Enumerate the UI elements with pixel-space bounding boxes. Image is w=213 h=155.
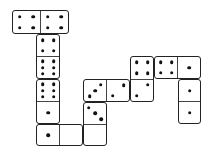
pip-icon — [93, 111, 97, 115]
pip-icon — [99, 117, 103, 121]
domino-half-3 — [84, 103, 106, 124]
pip-icon — [46, 111, 50, 115]
pip-icon — [122, 83, 126, 87]
domino-half-0 — [59, 125, 82, 145]
pip-icon — [146, 61, 150, 65]
domino-half-1 — [179, 80, 200, 101]
pip-icon — [52, 66, 56, 70]
domino-3-0[interactable] — [83, 102, 107, 146]
domino-4-6[interactable] — [36, 34, 60, 79]
pip-icon — [187, 66, 191, 70]
pip-icon — [135, 94, 139, 98]
pip-icon — [170, 71, 174, 75]
domino-1-1[interactable] — [178, 79, 201, 124]
domino-half-4 — [131, 57, 153, 79]
pip-icon — [52, 89, 56, 93]
pip-icon — [170, 60, 174, 64]
pip-icon — [41, 95, 45, 99]
domino-half-3 — [84, 80, 106, 101]
pip-icon — [41, 72, 45, 76]
domino-half-1 — [179, 101, 200, 123]
pip-icon — [59, 15, 63, 19]
pip-icon — [188, 89, 192, 93]
pip-icon — [31, 15, 35, 19]
pip-icon — [41, 66, 45, 70]
pip-icon — [18, 15, 22, 19]
pip-icon — [18, 26, 22, 30]
pip-icon — [46, 133, 50, 137]
pip-icon — [88, 95, 92, 99]
pip-icon — [41, 49, 45, 53]
pip-icon — [99, 83, 103, 87]
pip-icon — [52, 38, 56, 42]
pip-icon — [52, 82, 56, 86]
pip-icon — [52, 49, 56, 53]
domino-board — [0, 0, 213, 155]
domino-1-0[interactable] — [36, 124, 83, 146]
pip-icon — [146, 83, 150, 87]
domino-4-4[interactable] — [12, 10, 69, 34]
domino-half-6 — [37, 80, 59, 101]
pip-icon — [52, 72, 56, 76]
domino-half-4 — [13, 11, 40, 33]
domino-4-2[interactable] — [130, 56, 154, 102]
pip-icon — [111, 94, 115, 98]
pip-icon — [46, 26, 50, 30]
pip-icon — [59, 26, 63, 30]
domino-half-2 — [131, 79, 153, 102]
pip-icon — [87, 106, 91, 110]
pip-icon — [31, 26, 35, 30]
domino-half-2 — [106, 80, 129, 101]
pip-icon — [135, 71, 139, 75]
domino-half-6 — [37, 56, 59, 78]
domino-half-1 — [177, 57, 200, 78]
domino-half-1 — [37, 125, 59, 145]
pip-icon — [52, 95, 56, 99]
pip-icon — [159, 71, 163, 75]
pip-icon — [41, 38, 45, 42]
pip-icon — [146, 71, 150, 75]
domino-half-4 — [155, 57, 177, 78]
pip-icon — [93, 89, 97, 93]
pip-icon — [52, 59, 56, 63]
pip-icon — [188, 111, 192, 115]
domino-3-2[interactable] — [83, 79, 130, 102]
pip-icon — [41, 59, 45, 63]
domino-half-4 — [40, 11, 68, 33]
domino-6-1[interactable] — [36, 79, 60, 124]
pip-icon — [135, 61, 139, 65]
pip-icon — [41, 89, 45, 93]
domino-half-0 — [84, 124, 106, 146]
domino-half-1 — [37, 101, 59, 123]
domino-half-4 — [37, 35, 59, 56]
pip-icon — [41, 82, 45, 86]
pip-icon — [159, 60, 163, 64]
domino-4-1[interactable] — [154, 56, 201, 79]
pip-icon — [46, 15, 50, 19]
